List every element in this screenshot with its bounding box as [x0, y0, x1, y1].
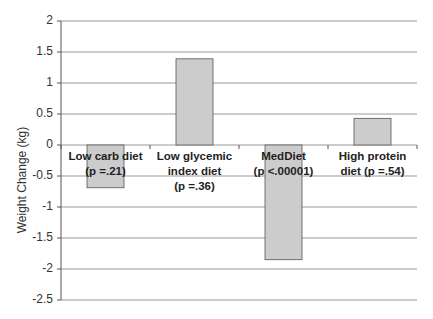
bar [176, 59, 213, 145]
y-tick-label: 2 [13, 13, 53, 27]
y-tick-label: 1 [13, 75, 53, 89]
bar [354, 118, 391, 145]
category-label: Low glycemicindex diet(p =.36) [150, 149, 240, 194]
y-tick-label: -1 [13, 199, 53, 213]
bar-chart: Weight Change (kg) 21.510.50-0.5-1-1.5-2… [0, 0, 433, 319]
category-label: Low carb diet(p =.21) [61, 149, 151, 179]
y-tick-label: -2.5 [13, 292, 53, 306]
y-tick-label: -0.5 [13, 168, 53, 182]
y-tick-label: 0 [13, 137, 53, 151]
y-tick-label: -2 [13, 261, 53, 275]
y-tick-label: -1.5 [13, 230, 53, 244]
category-label: High proteindiet (p =.54) [328, 149, 418, 179]
category-label: MedDiet(p <.00001) [239, 149, 329, 179]
y-tick-label: 1.5 [13, 44, 53, 58]
y-tick-label: 0.5 [13, 106, 53, 120]
